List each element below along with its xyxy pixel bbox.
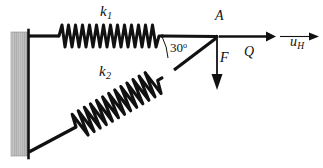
joint-point-A xyxy=(214,35,218,39)
label-displacement-uH: uH xyxy=(290,35,304,51)
label-k2-symbol: k xyxy=(99,63,106,79)
label-angle-degree-symbol: o xyxy=(183,41,187,50)
spring-assembly-k2 xyxy=(29,38,217,153)
label-k1-subscript: 1 xyxy=(107,10,112,21)
spring-assembly-k1 xyxy=(28,25,217,47)
spring-system-diagram xyxy=(0,0,323,168)
spring-k2-left-stub xyxy=(29,127,76,152)
label-spring-constant-k1: k1 xyxy=(100,4,112,21)
angle-arc-30deg xyxy=(162,37,168,59)
figure-canvas: k1 k2 A F Q uH 30o xyxy=(0,0,323,168)
label-joint-A: A xyxy=(215,9,224,23)
label-force-Q: Q xyxy=(244,45,254,59)
label-angle-value: 30 xyxy=(170,40,183,55)
label-k2-subscript: 2 xyxy=(106,70,111,81)
force-vector-Q xyxy=(219,32,276,42)
fixed-wall xyxy=(11,32,28,156)
label-uH-subscript: H xyxy=(297,41,304,51)
spring-k1-right-stub xyxy=(161,36,217,37)
label-uH-symbol: u xyxy=(290,34,297,49)
label-angle-30-degrees: 30o xyxy=(170,41,187,54)
label-spring-constant-k2: k2 xyxy=(99,64,111,81)
label-force-F: F xyxy=(220,51,229,65)
label-k1-symbol: k xyxy=(100,3,107,19)
spring-k2-coil xyxy=(70,67,169,139)
spring-k1-coil xyxy=(59,25,163,47)
